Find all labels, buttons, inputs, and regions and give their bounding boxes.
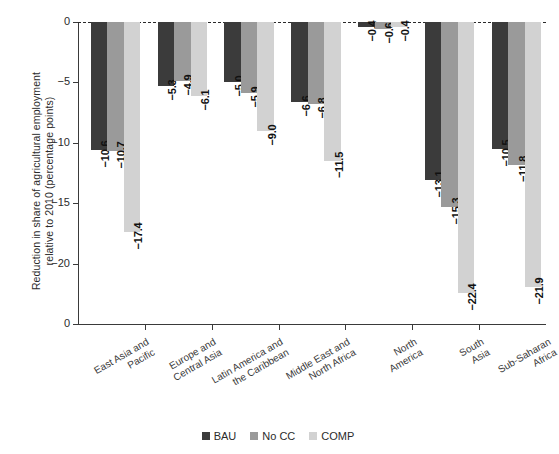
legend-item[interactable]: No CC xyxy=(250,430,295,442)
bar-no-cc[interactable]: −6.8 xyxy=(308,22,325,324)
legend-swatch-icon xyxy=(309,432,317,440)
bar-rect xyxy=(492,22,509,149)
bar-bau[interactable]: −5.0 xyxy=(224,22,241,324)
bar-rect xyxy=(158,22,175,86)
bar-no-cc[interactable]: −15.3 xyxy=(441,22,458,324)
y-tick-mark xyxy=(73,22,78,23)
plot-area: 0−5−10−15−200 −10.6−10.7−17.4−5.3−4.9−6.… xyxy=(78,22,546,324)
bar-no-cc[interactable]: −0.6 xyxy=(375,22,392,324)
bar-no-cc[interactable]: −11.8 xyxy=(508,22,525,324)
y-tick-label: 0 xyxy=(38,317,70,329)
bar-comp[interactable]: −22.4 xyxy=(458,22,475,324)
bar-group: −13.1−15.3−22.4 xyxy=(425,22,475,324)
y-tick-label: −20 xyxy=(38,257,70,269)
legend-label: COMP xyxy=(321,430,354,442)
bar-value-label: −17.4 xyxy=(132,223,144,250)
bar-group: −6.6−6.8−11.5 xyxy=(291,22,341,324)
x-axis-tick-mark xyxy=(212,324,213,330)
bar-rect xyxy=(91,22,108,150)
bar-rect xyxy=(191,22,208,96)
bar-value-label: −0.4 xyxy=(399,20,411,41)
bar-group: −10.6−10.7−17.4 xyxy=(91,22,141,324)
x-axis-tick-mark xyxy=(412,324,413,330)
bar-comp[interactable]: −11.5 xyxy=(324,22,341,324)
y-axis-line xyxy=(78,22,79,324)
bar-group: −0.4−0.6−0.4 xyxy=(358,22,408,324)
y-tick-label: −10 xyxy=(38,136,70,148)
chart-legend: BAUNo CCCOMP xyxy=(0,430,556,442)
bar-rect xyxy=(224,22,241,82)
bar-value-label: −11.5 xyxy=(333,152,345,178)
y-tick-mark xyxy=(73,203,78,204)
bar-comp[interactable]: −9.0 xyxy=(257,22,274,324)
y-tick-mark xyxy=(73,324,78,325)
bar-rect xyxy=(458,22,475,293)
bar-value-label: −6.1 xyxy=(199,89,211,110)
bar-rect xyxy=(107,22,124,151)
bar-rect xyxy=(441,22,458,207)
bar-rect xyxy=(525,22,542,287)
x-axis-tick-mark xyxy=(279,324,280,330)
bar-value-label: −22.4 xyxy=(466,283,478,310)
bar-bau[interactable]: −5.3 xyxy=(158,22,175,324)
bar-rect xyxy=(241,22,258,93)
bar-no-cc[interactable]: −4.9 xyxy=(174,22,191,324)
bar-rect xyxy=(174,22,191,81)
bar-bau[interactable]: −0.4 xyxy=(358,22,375,324)
bar-rect xyxy=(324,22,341,161)
x-axis-tick-mark xyxy=(345,324,346,330)
bar-rect xyxy=(257,22,274,131)
x-axis-tick-mark xyxy=(145,324,146,330)
y-tick-label: −5 xyxy=(38,75,70,87)
bar-comp[interactable]: −0.4 xyxy=(391,22,408,324)
bar-comp[interactable]: −6.1 xyxy=(191,22,208,324)
x-axis-line xyxy=(78,324,546,325)
bar-bau[interactable]: −13.1 xyxy=(425,22,442,324)
bar-rect xyxy=(291,22,308,102)
bar-rect xyxy=(508,22,525,165)
bar-comp[interactable]: −21.9 xyxy=(525,22,542,324)
legend-label: No CC xyxy=(262,430,295,442)
legend-item[interactable]: BAU xyxy=(202,430,237,442)
x-axis-tick-mark xyxy=(479,324,480,330)
legend-swatch-icon xyxy=(250,432,258,440)
bar-rect xyxy=(124,22,141,232)
y-tick-label: −15 xyxy=(38,196,70,208)
y-tick-mark xyxy=(73,264,78,265)
legend-item[interactable]: COMP xyxy=(309,430,354,442)
bar-rect xyxy=(425,22,442,180)
bar-group: −10.5−11.8−21.9 xyxy=(492,22,542,324)
bar-value-label: −9.0 xyxy=(266,124,278,145)
bar-group: −5.0−5.9−9.0 xyxy=(224,22,274,324)
legend-label: BAU xyxy=(214,430,237,442)
bar-bau[interactable]: −6.6 xyxy=(291,22,308,324)
bar-bau[interactable]: −10.6 xyxy=(91,22,108,324)
y-tick-label: 0 xyxy=(38,15,70,27)
legend-swatch-icon xyxy=(202,432,210,440)
bar-bau[interactable]: −10.5 xyxy=(492,22,509,324)
y-tick-mark xyxy=(73,143,78,144)
bar-no-cc[interactable]: −5.9 xyxy=(241,22,258,324)
bar-group: −5.3−4.9−6.1 xyxy=(158,22,208,324)
bar-rect xyxy=(308,22,325,104)
y-tick-mark xyxy=(73,82,78,83)
bar-no-cc[interactable]: −10.7 xyxy=(107,22,124,324)
bar-value-label: −21.9 xyxy=(533,277,545,304)
bar-comp[interactable]: −17.4 xyxy=(124,22,141,324)
